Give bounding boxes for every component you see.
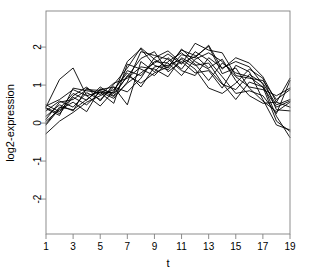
chart-figure: 135791113151719-2-1012 log2-expression t [0, 0, 310, 276]
x-axis-tick-label: 1 [43, 241, 49, 252]
y-axis-tick-label: 1 [32, 82, 43, 88]
x-axis-tick-label: 19 [284, 241, 296, 252]
y-axis-tick-label-group: 0 [32, 120, 43, 126]
x-axis-tick-label: 7 [125, 241, 131, 252]
y-axis-title: log2-expression [4, 84, 16, 162]
y-axis-tick-label-group: 1 [32, 82, 43, 88]
x-axis-tick-label: 5 [97, 241, 103, 252]
x-axis-tick-label: 15 [230, 241, 242, 252]
x-axis-title: t [166, 257, 169, 269]
y-axis-tick-label-group: -1 [32, 156, 43, 165]
x-axis-tick-label: 9 [152, 241, 158, 252]
y-axis-tick-label: 2 [32, 44, 43, 50]
x-axis-tick-label: 17 [257, 241, 269, 252]
y-axis-tick-label-group: 2 [32, 44, 43, 50]
x-axis-tick-label: 13 [203, 241, 215, 252]
y-axis-tick-label: -1 [32, 156, 43, 165]
y-axis-tick-label: 0 [32, 120, 43, 126]
x-axis-tick-label: 3 [70, 241, 76, 252]
y-axis-tick-label: -2 [32, 194, 43, 203]
chart-background [0, 0, 310, 276]
x-axis-tick-label: 11 [176, 241, 187, 252]
line-chart: 135791113151719-2-1012 log2-expression t [0, 0, 310, 276]
y-axis-tick-label-group: -2 [32, 194, 43, 203]
